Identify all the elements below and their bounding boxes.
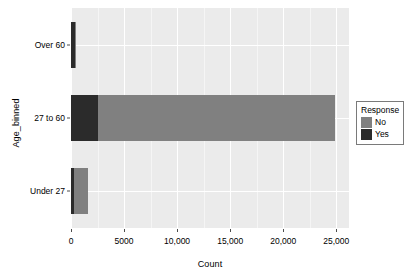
legend-item[interactable]: Yes: [361, 129, 399, 140]
legend-items: NoYes: [361, 117, 399, 140]
legend-swatch: [361, 117, 372, 128]
legend: Response NoYes: [356, 101, 404, 145]
x-axis-title: Count: [71, 259, 349, 269]
bar-group: [71, 22, 349, 68]
x-tick-mark: [336, 229, 337, 232]
legend-label: No: [375, 117, 386, 128]
x-tick-mark: [124, 229, 125, 232]
x-tick-label: 25,000: [323, 236, 349, 246]
bar-group: [71, 95, 349, 141]
bar-segment: [75, 22, 76, 68]
x-tick-label: 20,000: [270, 236, 296, 246]
y-tick-label: Under 27: [3, 186, 65, 196]
legend-label: Yes: [375, 129, 389, 140]
plot-panel: [71, 8, 349, 228]
x-tick-mark: [230, 229, 231, 232]
y-axis-tick-labels: Over 6027 to 60Under 27: [0, 0, 65, 275]
x-tick-mark: [177, 229, 178, 232]
y-tick-label: 27 to 60: [3, 113, 65, 123]
legend-swatch: [361, 129, 372, 140]
legend-item[interactable]: No: [361, 117, 399, 128]
x-tick-label: 15,000: [217, 236, 243, 246]
x-tick-mark: [71, 229, 72, 232]
y-tick-mark: [67, 44, 70, 45]
x-tick-label: 10,000: [164, 236, 190, 246]
x-tick-label: 0: [69, 236, 74, 246]
legend-key-icon: [361, 129, 372, 140]
y-tick-mark: [67, 118, 70, 119]
bar-group: [71, 168, 349, 214]
bar-segment: [74, 168, 88, 214]
chart-figure: Age_binned Over 6027 to 60Under 27 05000…: [0, 0, 419, 275]
legend-title: Response: [361, 105, 399, 115]
x-tick-mark: [283, 229, 284, 232]
legend-key-icon: [361, 117, 372, 128]
bar-segment: [98, 95, 335, 141]
y-tick-label: Over 60: [3, 40, 65, 50]
y-tick-mark: [67, 191, 70, 192]
x-tick-label: 5000: [115, 236, 134, 246]
bar-segment: [71, 95, 98, 141]
